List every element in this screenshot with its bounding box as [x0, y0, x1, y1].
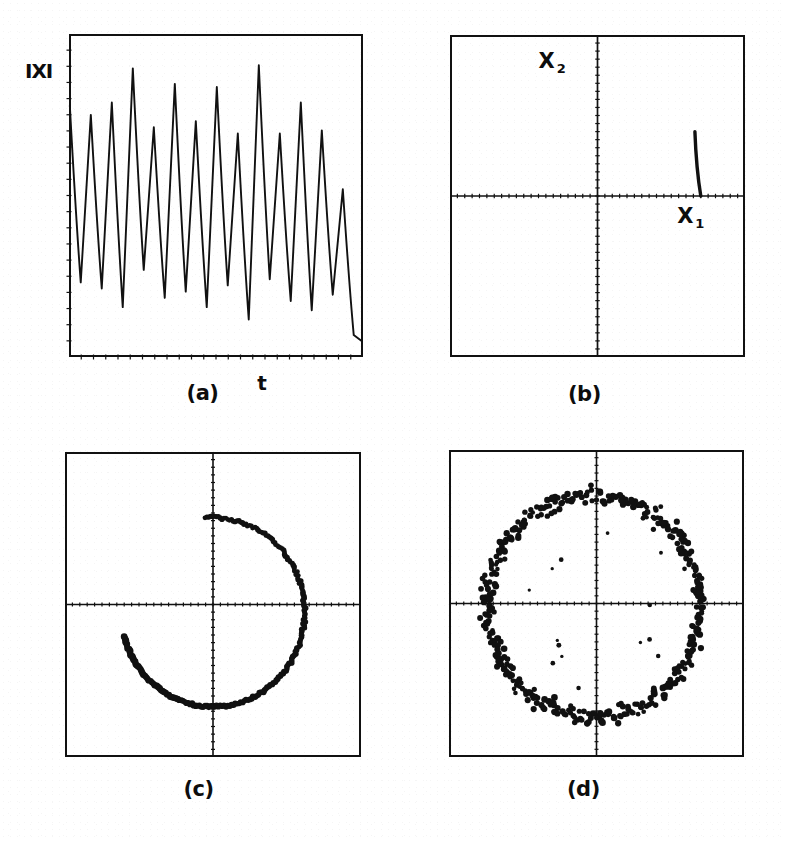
panel-b-plot	[450, 35, 745, 357]
panel-a-x-axis-label: t	[257, 371, 267, 395]
panel-b-x-axis-label: X1	[677, 204, 704, 231]
panel-b-y-axis-symbol: X	[539, 49, 555, 73]
panel-a-caption: (a)	[187, 381, 219, 405]
panel-b-caption: (b)	[568, 382, 601, 406]
figure-root: IXI t (a) X2 X1 (b) (c) (d)	[0, 0, 786, 841]
panel-b	[450, 35, 745, 357]
panel-c	[65, 452, 361, 757]
panel-d	[449, 450, 744, 757]
panel-c-caption: (c)	[183, 777, 213, 801]
panel-a	[69, 34, 363, 357]
panel-d-plot	[449, 450, 744, 757]
panel-a-plot	[69, 34, 363, 357]
panel-c-plot	[65, 452, 361, 757]
panel-d-caption: (d)	[567, 777, 600, 801]
panel-b-x-axis-subscript: 1	[693, 216, 704, 231]
panel-b-x-axis-symbol: X	[677, 204, 693, 228]
panel-a-y-axis-label: IXI	[25, 59, 52, 83]
panel-b-y-axis-label: X2	[539, 49, 566, 76]
panel-b-y-axis-subscript: 2	[555, 61, 566, 76]
